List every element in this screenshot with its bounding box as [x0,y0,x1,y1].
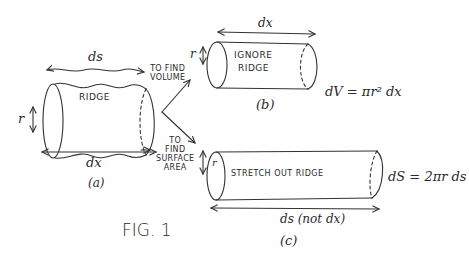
radius-label-c: r [212,158,217,168]
ds-not-dx-label: ds (not dx) [280,213,345,225]
to-find-volume-label: TO FIND VOLUME [150,64,185,82]
surface-formula: dS = 2πr ds [388,170,467,183]
panel-label-c: (c) [280,234,297,247]
ridge-label: RIDGE [79,93,110,102]
ds-label-a: ds [88,50,103,63]
dx-label-a: dx [86,156,102,169]
dx-label-b: dx [258,17,272,29]
dx-arrow-b [218,32,315,34]
diagram-drawing [0,0,469,264]
radius-label-a: r [18,112,24,125]
figure-caption: FIG. 1 [122,222,172,239]
ds-wavy-arrow-a [47,69,144,72]
volume-formula: dV = πr² dx [325,85,402,98]
to-find-surface-area-label: TO FIND SURFACE AREA [156,136,194,172]
ds-arrow-c [211,208,379,209]
figure-canvas: ds r RIDGE dx (a) TO FIND VOLUME TO FIND… [0,0,469,264]
radius-label-b: r [190,48,196,60]
stretch-out-ridge-label: STRETCH OUT RIDGE [231,170,324,178]
panel-label-b: (b) [256,98,274,111]
panel-label-a: (a) [88,177,105,189]
ignore-ridge-label: IGNORE RIDGE [234,49,272,75]
